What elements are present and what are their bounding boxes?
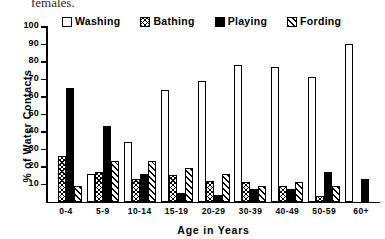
legend-swatch-bathing-icon bbox=[140, 17, 150, 27]
bar-playing-60+ bbox=[361, 179, 369, 202]
y-tick: 80 bbox=[41, 61, 46, 63]
bar-playing-0-4 bbox=[66, 88, 74, 202]
bar-bathing-5-9 bbox=[95, 172, 103, 202]
bar-fording-0-4 bbox=[74, 186, 82, 202]
y-tick-label: 100 bbox=[23, 20, 39, 30]
x-tick-label: 50-59 bbox=[306, 206, 343, 216]
bar-playing-50-59 bbox=[324, 172, 332, 202]
bar-fording-40-49 bbox=[295, 182, 303, 201]
bar-playing-15-19 bbox=[177, 193, 185, 202]
bar-group bbox=[158, 27, 195, 202]
x-tick-label: 5-9 bbox=[84, 206, 121, 216]
y-tick: 10 bbox=[41, 184, 46, 186]
y-tick-label: 30 bbox=[29, 143, 39, 153]
bar-bathing-0-4 bbox=[58, 156, 66, 202]
y-tick: 100 bbox=[41, 26, 46, 28]
y-tick-label: 20 bbox=[29, 160, 39, 170]
bar-fording-5-9 bbox=[111, 161, 119, 201]
bar-washing-60+ bbox=[345, 44, 353, 202]
bar-fording-30-39 bbox=[258, 186, 266, 202]
y-tick-label: 70 bbox=[29, 73, 39, 83]
bar-washing-20-29 bbox=[198, 81, 206, 202]
bar-bathing-10-14 bbox=[132, 179, 140, 202]
caption-fragment-text: females. bbox=[31, 0, 75, 11]
bar-groups bbox=[48, 27, 380, 202]
bar-fording-50-59 bbox=[332, 186, 340, 202]
bar-group bbox=[269, 27, 306, 202]
y-tick-label: 90 bbox=[29, 38, 39, 48]
bar-group bbox=[306, 27, 343, 202]
y-tick-label: 60 bbox=[29, 90, 39, 100]
x-tick-label: 10-14 bbox=[121, 206, 158, 216]
bar-playing-40-49 bbox=[287, 189, 295, 201]
x-tick-label: 15-19 bbox=[158, 206, 195, 216]
x-tick-label: 40-49 bbox=[269, 206, 306, 216]
bar-bathing-50-59 bbox=[316, 196, 324, 201]
y-tick-label: 80 bbox=[29, 55, 39, 65]
legend-swatch-washing-icon bbox=[62, 17, 72, 27]
bar-washing-30-39 bbox=[234, 65, 242, 202]
bar-bathing-15-19 bbox=[169, 175, 177, 201]
y-tick: 20 bbox=[41, 166, 46, 168]
bar-washing-5-9 bbox=[87, 174, 95, 202]
y-tick-label: 40 bbox=[29, 125, 39, 135]
legend-swatch-fording-icon bbox=[287, 17, 297, 27]
x-axis-label: Age in Years bbox=[48, 224, 380, 236]
x-tick-label: 20-29 bbox=[195, 206, 232, 216]
x-tick-label: 30-39 bbox=[232, 206, 269, 216]
bar-group bbox=[84, 27, 121, 202]
bar-washing-40-49 bbox=[271, 67, 279, 202]
bar-bathing-40-49 bbox=[279, 186, 287, 202]
y-tick: 30 bbox=[41, 149, 46, 151]
x-axis-line bbox=[46, 202, 380, 204]
y-tick: 70 bbox=[41, 79, 46, 81]
y-tick: 90 bbox=[41, 44, 46, 46]
bar-group bbox=[48, 27, 85, 202]
y-tick: 40 bbox=[41, 131, 46, 133]
y-tick: 60 bbox=[41, 96, 46, 98]
bar-fording-20-29 bbox=[222, 174, 230, 202]
bar-bathing-20-29 bbox=[206, 181, 214, 202]
bar-playing-10-14 bbox=[140, 174, 148, 202]
bar-washing-15-19 bbox=[161, 90, 169, 202]
x-tick-label: 0-4 bbox=[48, 206, 85, 216]
x-axis-ticks: 0-45-910-1415-1920-2930-3940-4950-5960+ bbox=[48, 206, 380, 216]
bar-fording-10-14 bbox=[148, 161, 156, 201]
bar-group bbox=[121, 27, 158, 202]
bar-washing-10-14 bbox=[124, 142, 132, 202]
y-tick-label: 50 bbox=[29, 108, 39, 118]
chart-figure: females. WashingBathingPlayingFording % … bbox=[0, 0, 385, 239]
plot-area: 102030405060708090100 bbox=[46, 26, 380, 203]
bar-fording-15-19 bbox=[185, 168, 193, 201]
bar-bathing-30-39 bbox=[242, 182, 250, 201]
bar-playing-30-39 bbox=[250, 189, 258, 201]
bar-group bbox=[232, 27, 269, 202]
bar-group bbox=[343, 27, 380, 202]
x-tick-label: 60+ bbox=[343, 206, 380, 216]
y-tick: 50 bbox=[41, 114, 46, 116]
bar-group bbox=[195, 27, 232, 202]
y-tick-label: 10 bbox=[29, 178, 39, 188]
bar-washing-50-59 bbox=[308, 77, 316, 201]
bar-playing-20-29 bbox=[214, 195, 222, 202]
legend-swatch-playing-icon bbox=[215, 17, 225, 27]
bar-playing-5-9 bbox=[103, 126, 111, 201]
